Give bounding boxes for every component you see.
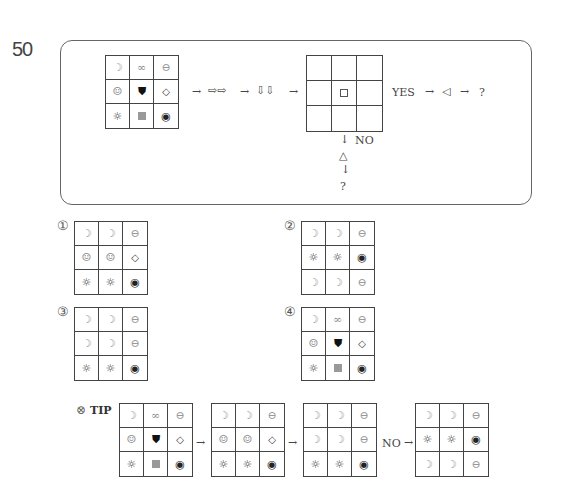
theta-icon: ⊖ bbox=[357, 277, 366, 288]
tip-arrow-2: → bbox=[288, 436, 297, 449]
target-icon: ◉ bbox=[130, 363, 140, 374]
grid-cell: ◉ bbox=[123, 270, 147, 294]
grid-cell: ☽ bbox=[416, 404, 440, 428]
shield-icon: ⛊ bbox=[138, 86, 146, 97]
moon-icon: ☽ bbox=[106, 338, 116, 349]
grid-cell: ☼ bbox=[212, 452, 236, 476]
grid-cell: ☽ bbox=[416, 452, 440, 476]
moon-icon: ☽ bbox=[447, 459, 457, 470]
option-2-label[interactable]: ② bbox=[284, 218, 296, 233]
question-number: 50 bbox=[12, 38, 32, 61]
moon-icon: ☽ bbox=[311, 410, 321, 421]
target-icon: ◉ bbox=[359, 459, 369, 470]
infinity-icon: ∞ bbox=[333, 314, 342, 325]
shield-icon: ⛊ bbox=[152, 434, 160, 445]
grid-cell: ☽ bbox=[328, 428, 352, 452]
grid-cell: ◉ bbox=[154, 104, 178, 128]
grid-cell: ☼ bbox=[106, 104, 130, 128]
theta-icon: ⊖ bbox=[357, 228, 366, 239]
sun-icon: ☼ bbox=[243, 459, 253, 470]
moon-icon: ☽ bbox=[423, 410, 433, 421]
tip-arrow-3: → bbox=[404, 436, 413, 449]
moon-icon: ☽ bbox=[106, 228, 116, 239]
up-triangle-icon: △ bbox=[339, 149, 347, 162]
moon-icon: ☽ bbox=[335, 434, 345, 445]
target-icon: ◉ bbox=[175, 459, 185, 470]
grid-cell: ☽ bbox=[440, 404, 464, 428]
theta-icon: ⊖ bbox=[130, 338, 139, 349]
grid-cell: ∞ bbox=[130, 56, 154, 80]
grid-cell: ☽ bbox=[99, 308, 123, 332]
tip-step-4-grid: ☽☽⊖☼☼◉☽☽⊖ bbox=[415, 403, 489, 477]
yes-label: YES bbox=[392, 86, 415, 99]
sun-icon: ☼ bbox=[311, 459, 321, 470]
moon-icon: ☽ bbox=[309, 277, 319, 288]
theta-icon: ⊖ bbox=[267, 410, 276, 421]
grid-cell: ☼ bbox=[99, 356, 123, 380]
grid-cell bbox=[307, 106, 332, 131]
grid-cell bbox=[130, 104, 154, 128]
gray-square-icon bbox=[138, 112, 146, 120]
grid-cell: ☺ bbox=[106, 80, 130, 104]
moon-icon: ☽ bbox=[113, 62, 123, 73]
grid-cell: ☽ bbox=[304, 428, 328, 452]
tip-arrow-1: → bbox=[196, 436, 205, 449]
grid-cell: ☽ bbox=[106, 56, 130, 80]
option-4-grid[interactable]: ☽∞⊖☺⛊◇☼◉ bbox=[301, 307, 375, 381]
tip-icon: ⊗ bbox=[76, 403, 86, 417]
sun-icon: ☼ bbox=[219, 459, 229, 470]
grid-cell: ☺ bbox=[302, 332, 326, 356]
grid-cell: ◉ bbox=[464, 428, 488, 452]
grid-cell: ◇ bbox=[154, 80, 178, 104]
theta-icon: ⊖ bbox=[359, 434, 368, 445]
left-triangle-icon: ◁ bbox=[442, 85, 450, 98]
theta-icon: ⊖ bbox=[130, 228, 139, 239]
grid-cell: ☽ bbox=[75, 308, 99, 332]
grid-cell bbox=[332, 56, 357, 81]
diamond-icon: ◇ bbox=[162, 87, 170, 97]
grid-cell bbox=[307, 81, 332, 106]
option-4-label[interactable]: ④ bbox=[284, 304, 296, 319]
sun-icon: ☼ bbox=[106, 277, 116, 288]
grid-cell: ◇ bbox=[350, 332, 374, 356]
grid-cell: ☽ bbox=[75, 332, 99, 356]
option-1-grid[interactable]: ☽☽⊖☺☺◇☼☼◉ bbox=[74, 221, 148, 295]
sun-icon: ☼ bbox=[333, 252, 343, 263]
target-icon: ◉ bbox=[130, 277, 140, 288]
moon-icon: ☽ bbox=[447, 410, 457, 421]
smile-icon: ☺ bbox=[106, 252, 116, 263]
grid-cell: ◉ bbox=[352, 452, 376, 476]
flow-arrow-1: → bbox=[192, 85, 201, 98]
grid-cell: ☼ bbox=[416, 428, 440, 452]
moon-icon: ☽ bbox=[219, 410, 229, 421]
moon-icon: ☽ bbox=[82, 228, 92, 239]
option-3-label[interactable]: ③ bbox=[57, 304, 69, 319]
diamond-icon: ◇ bbox=[176, 435, 184, 445]
grid-cell bbox=[326, 356, 350, 380]
moon-icon: ☽ bbox=[333, 228, 343, 239]
option-3-grid[interactable]: ☽☽⊖☽☽⊖☼☼◉ bbox=[74, 307, 148, 381]
grid-cell: ⊖ bbox=[260, 404, 284, 428]
grid-cell: ⊖ bbox=[350, 222, 374, 246]
grid-cell: ☽ bbox=[236, 404, 260, 428]
sun-icon: ☼ bbox=[127, 459, 137, 470]
target-icon: ◉ bbox=[267, 459, 277, 470]
infinity-icon: ∞ bbox=[137, 62, 146, 73]
sun-icon: ☼ bbox=[309, 363, 319, 374]
grid-cell: ☼ bbox=[326, 246, 350, 270]
start-grid: ☽∞⊖☺⛊◇☼◉ bbox=[105, 55, 179, 129]
grid-cell: ☼ bbox=[328, 452, 352, 476]
grid-cell: ◇ bbox=[123, 246, 147, 270]
no-label: NO bbox=[355, 134, 374, 147]
grid-cell: ☽ bbox=[328, 404, 352, 428]
moon-icon: ☽ bbox=[335, 410, 345, 421]
grid-cell: ☽ bbox=[326, 270, 350, 294]
option-1-label[interactable]: ① bbox=[57, 218, 69, 233]
moon-icon: ☽ bbox=[127, 410, 137, 421]
moon-icon: ☽ bbox=[333, 277, 343, 288]
option-2-grid[interactable]: ☽☽⊖☼☼◉☽☽⊖ bbox=[301, 221, 375, 295]
tip-no-label: NO bbox=[382, 437, 401, 450]
grid-cell: ☼ bbox=[302, 356, 326, 380]
grid-cell: ☽ bbox=[212, 404, 236, 428]
grid-cell: ☽ bbox=[440, 452, 464, 476]
